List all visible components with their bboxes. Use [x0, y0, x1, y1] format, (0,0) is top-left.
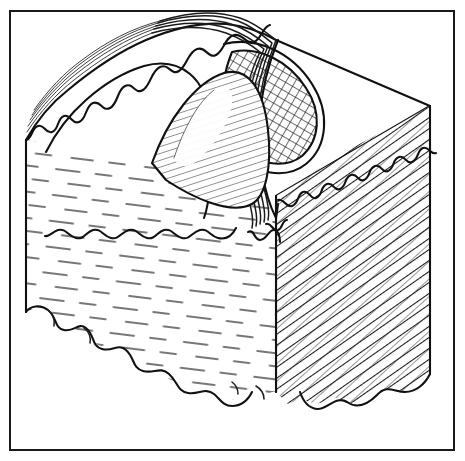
anticline-block-diagram — [0, 0, 465, 461]
figure-root: Block diagram of an eroded anticline fol… — [0, 0, 465, 461]
